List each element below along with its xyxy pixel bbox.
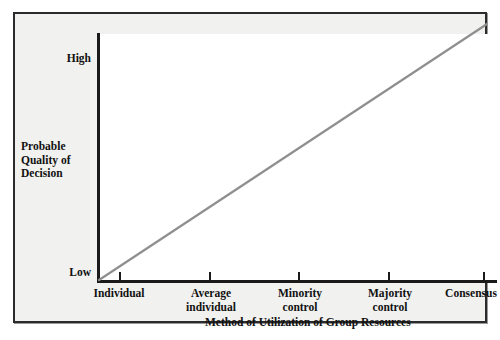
figure-container: Individual Averageindividual Minoritycon… [0, 0, 500, 340]
x-axis-line [97, 280, 497, 283]
x-tick-label-majority-control: Majoritycontrol [368, 287, 412, 314]
x-tick-0 [119, 272, 121, 280]
x-tick-label-line-2: individual [186, 301, 236, 313]
x-axis-title: Method of Utilization of Group Resources [205, 316, 411, 328]
x-tick-2 [298, 272, 300, 280]
x-tick-label-line-2: control [373, 301, 408, 313]
y-axis-title: Probable Quality of Decision [21, 140, 93, 181]
y-axis-low-label: Low [25, 266, 91, 278]
x-tick-4 [483, 272, 485, 280]
y-axis-title-line-3: Decision [21, 167, 93, 181]
y-axis-title-line-2: Quality of [21, 154, 93, 168]
x-tick-label-average-individual: Averageindividual [186, 287, 236, 314]
plot-area [99, 34, 496, 282]
x-tick-label-line-1: Minority [278, 287, 322, 299]
y-axis-title-line-1: Probable [21, 140, 93, 154]
x-tick-3 [388, 272, 390, 280]
x-tick-label-minority-control: Minoritycontrol [278, 287, 322, 314]
x-tick-label-line-1: Majority [368, 287, 412, 299]
y-axis-high-label: High [25, 52, 91, 64]
x-tick-label-line-1: Average [191, 287, 231, 299]
y-axis-line [97, 33, 100, 283]
x-tick-label-line-2: control [283, 301, 318, 313]
x-tick-1 [209, 272, 211, 280]
chart-frame: Individual Averageindividual Minoritycon… [13, 12, 487, 323]
x-tick-label-consensus: Consensus [445, 287, 497, 301]
x-tick-label-individual: Individual [93, 287, 144, 301]
